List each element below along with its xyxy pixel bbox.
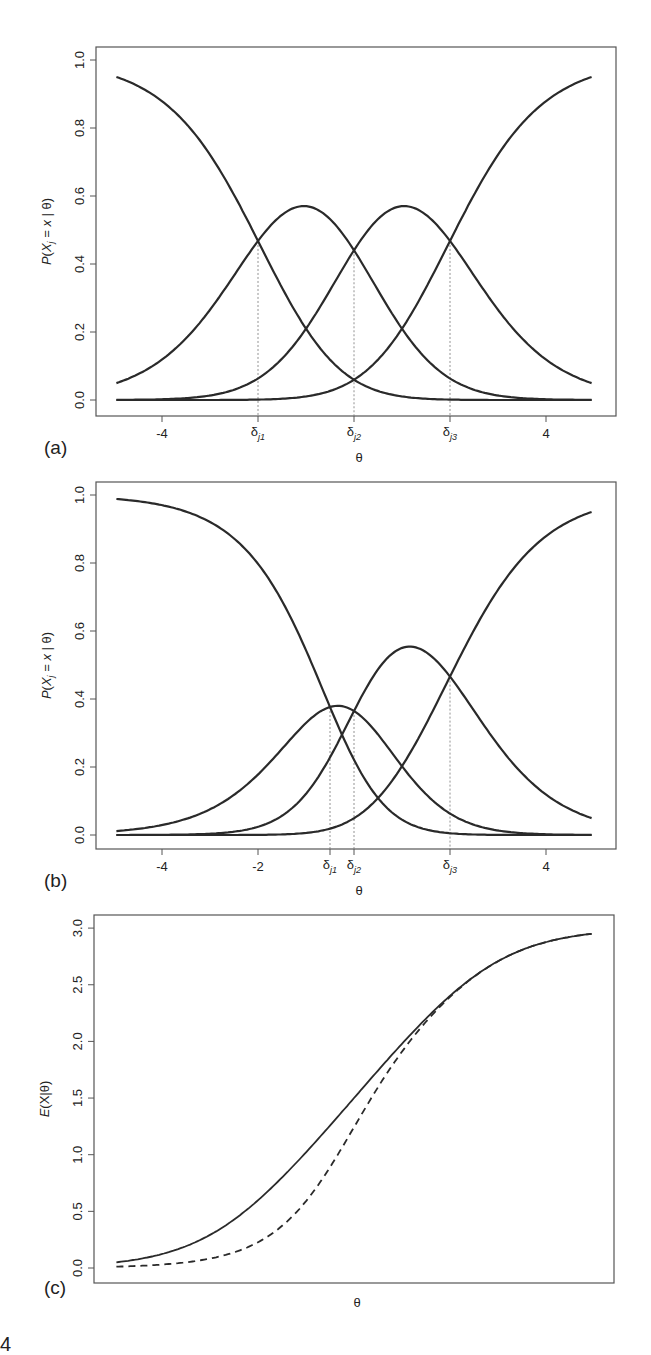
- threshold-label: δj3: [443, 857, 457, 875]
- y-tick-label: 0.4: [72, 255, 87, 273]
- y-tick-label: 0.2: [72, 323, 87, 341]
- y-tick-label: 0.2: [72, 758, 87, 776]
- y-tick-label: 2.5: [70, 976, 85, 994]
- panel-label-c: (c): [44, 1277, 66, 1299]
- threshold-label: δj1: [323, 857, 337, 875]
- y-tick-label: 0.4: [72, 690, 87, 708]
- x-axis-label: θ: [355, 450, 362, 465]
- y-tick-label: 1.0: [70, 1146, 85, 1164]
- threshold-label: δj2: [347, 424, 361, 442]
- panel-b-chart: 0.00.20.40.60.81.0P(Xj = x | θ)-4-24δj1δ…: [39, 482, 616, 898]
- y-tick-label: 0.8: [72, 554, 87, 572]
- threshold-label: δj3: [443, 424, 457, 442]
- y-tick-label: 1.5: [70, 1089, 85, 1107]
- threshold-label: δj1: [251, 424, 265, 442]
- y-tick-label: 1.0: [72, 51, 87, 69]
- category-curve-3: [116, 512, 591, 835]
- x-tick-label: -2: [252, 859, 264, 874]
- x-axis-label: θ: [355, 883, 362, 898]
- y-tick-label: 0.6: [72, 622, 87, 640]
- panel-label-a: (a): [44, 437, 67, 459]
- x-tick-label: 4: [542, 426, 549, 441]
- expected-score-dashed-curve: [116, 934, 591, 1267]
- y-tick-label: 0.8: [72, 119, 87, 137]
- y-tick-label: 3.0: [70, 919, 85, 937]
- threshold-label: δj2: [347, 857, 361, 875]
- y-tick-label: 0.0: [72, 391, 87, 409]
- panel-c-chart: 0.00.51.01.52.02.53.0E(X|θ)θ: [37, 915, 614, 1310]
- y-axis-label: E(X|θ): [37, 1081, 52, 1118]
- y-tick-label: 2.0: [70, 1032, 85, 1050]
- panel-a-chart: 0.00.20.40.60.81.0P(Xj = x | θ)-44δj1δj2…: [39, 47, 616, 465]
- y-tick-label: 1.0: [72, 486, 87, 504]
- plot-frame: [96, 47, 616, 416]
- y-axis-label: P(Xj = x | θ): [39, 198, 56, 265]
- y-axis-label: P(Xj = x | θ): [39, 632, 56, 699]
- x-axis-label: θ: [353, 1295, 360, 1310]
- y-tick-label: 0.0: [70, 1259, 85, 1277]
- y-tick-label: 0.6: [72, 187, 87, 205]
- x-tick-label: -4: [156, 859, 168, 874]
- x-tick-label: 4: [542, 859, 549, 874]
- expected-score-solid-curve: [116, 934, 591, 1263]
- plot-frame: [96, 482, 616, 849]
- figure-number-fragment: 4: [0, 1333, 11, 1355]
- panel-label-b: (b): [44, 870, 67, 892]
- y-tick-label: 0.5: [70, 1202, 85, 1220]
- y-tick-label: 0.0: [72, 826, 87, 844]
- x-tick-label: -4: [156, 426, 168, 441]
